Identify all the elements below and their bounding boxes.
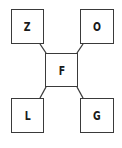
edge-f-z [40, 44, 46, 53]
node-l-label: L [25, 109, 31, 122]
node-f-center: F [45, 53, 78, 87]
edge-f-o [77, 44, 83, 53]
node-o: O [80, 9, 114, 44]
edge-f-l [40, 87, 46, 98]
node-g-label: G [93, 109, 101, 122]
node-z-label: Z [24, 20, 31, 33]
node-f-label: F [58, 64, 64, 77]
node-o-label: O [93, 20, 101, 33]
node-z: Z [11, 9, 44, 44]
diagram-canvas: Z O F L G [0, 0, 122, 148]
node-l: L [11, 98, 44, 133]
node-g: G [80, 98, 114, 133]
edge-f-g [77, 87, 83, 98]
